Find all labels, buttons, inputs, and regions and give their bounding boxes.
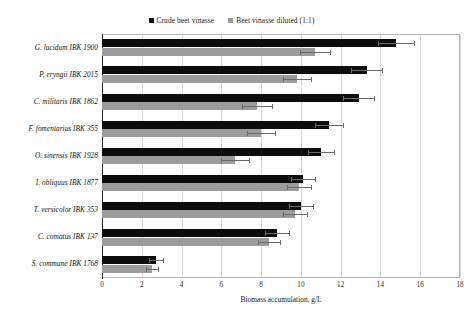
- error-bar-cap: [287, 185, 288, 190]
- bar-diluted: [102, 265, 152, 273]
- error-bar-cap: [343, 123, 344, 128]
- bar-crude: [102, 256, 156, 264]
- error-bar-cap: [315, 177, 316, 182]
- bar-group-row: O. sinensis IBK 1928: [102, 142, 460, 169]
- legend-label: Beet vinasse diluted (1:1): [236, 16, 314, 25]
- bar-crude: [102, 148, 321, 156]
- error-bar-cap: [291, 177, 292, 182]
- error-bar: [221, 160, 249, 161]
- x-tick-label: 18: [456, 281, 463, 289]
- bar-crude: [102, 94, 359, 102]
- bar-group-row: G. lucidum IBK 1900: [102, 34, 460, 61]
- error-bar-cap: [283, 77, 284, 82]
- bar-diluted: [102, 156, 235, 164]
- error-bar: [291, 179, 315, 180]
- error-bar-cap: [343, 96, 344, 101]
- error-bar-cap: [378, 41, 379, 46]
- bar-diluted: [102, 102, 257, 110]
- error-bar: [146, 269, 158, 270]
- error-bar: [258, 242, 280, 243]
- error-bar: [247, 133, 275, 134]
- x-axis-label: Biomass accumulation, g/L: [102, 295, 460, 304]
- bar-crude: [102, 202, 301, 210]
- error-bar: [283, 79, 311, 80]
- x-tick-label: 6: [220, 281, 224, 289]
- error-bar-cap: [300, 50, 301, 55]
- error-bar: [378, 43, 414, 44]
- error-bar-cap: [163, 258, 164, 263]
- bar-diluted: [102, 48, 315, 56]
- x-tick-label: 10: [297, 281, 304, 289]
- bar-group-row: C. comatus IBK 137: [102, 224, 460, 251]
- x-tick-label: 8: [259, 281, 263, 289]
- error-bar: [308, 152, 334, 153]
- error-bar-cap: [258, 240, 259, 245]
- error-bar-cap: [330, 50, 331, 55]
- bar-group-row: C. militaris IBK 1862: [102, 88, 460, 115]
- legend-swatch-icon: [228, 18, 233, 23]
- legend-item-2: Beet vinasse diluted (1:1): [228, 16, 314, 25]
- error-bar-cap: [283, 212, 284, 217]
- bar-group-row: T. versicolor IBK 353: [102, 197, 460, 224]
- bar-rows: G. lucidum IBK 1900P. eryngii IBK 2015C.…: [102, 34, 460, 278]
- error-bar: [283, 214, 307, 215]
- error-bar-cap: [272, 104, 273, 109]
- error-bar-cap: [351, 68, 352, 73]
- error-bar-cap: [307, 212, 308, 217]
- error-bar-cap: [242, 104, 243, 109]
- error-bar-cap: [374, 96, 375, 101]
- x-tick-label: 16: [417, 281, 424, 289]
- error-bar-cap: [414, 41, 415, 46]
- category-label: T. versicolor IBK 353: [34, 205, 98, 214]
- error-bar-cap: [247, 131, 248, 136]
- x-tick-label: 12: [337, 281, 344, 289]
- category-label: G. lucidum IBK 1900: [35, 43, 98, 52]
- category-label: I. obliquus IBK 1877: [36, 178, 98, 187]
- bar-crude: [102, 229, 277, 237]
- bar-diluted: [102, 238, 269, 246]
- chart-legend: Crude beet vinasseBeet vinasse diluted (…: [0, 16, 463, 25]
- x-axis-ticks: 024681012141618: [102, 281, 460, 293]
- error-bar: [265, 233, 289, 234]
- error-bar-cap: [334, 150, 335, 155]
- error-bar-cap: [158, 267, 159, 272]
- error-bar-cap: [221, 158, 222, 163]
- error-bar: [351, 70, 383, 71]
- error-bar-cap: [289, 231, 290, 236]
- error-bar: [289, 206, 313, 207]
- bar-group-row: F. fomentarius IBK 355: [102, 115, 460, 142]
- error-bar: [343, 98, 375, 99]
- bar-crude: [102, 121, 329, 129]
- error-bar: [242, 106, 272, 107]
- bar-group-row: S. commune IBK 1768: [102, 251, 460, 278]
- category-label: C. militaris IBK 1862: [34, 97, 98, 106]
- x-tick-label: 0: [100, 281, 104, 289]
- error-bar-cap: [382, 68, 383, 73]
- error-bar: [315, 125, 343, 126]
- error-bar: [300, 52, 330, 53]
- error-bar-cap: [308, 150, 309, 155]
- category-label: C. comatus IBK 137: [38, 232, 98, 241]
- error-bar-cap: [265, 231, 266, 236]
- error-bar-cap: [315, 123, 316, 128]
- legend-item-1: Crude beet vinasse: [149, 16, 215, 25]
- error-bar-cap: [146, 267, 147, 272]
- bar-group-row: P. eryngii IBK 2015: [102, 61, 460, 88]
- bar-diluted: [102, 183, 299, 191]
- error-bar-cap: [275, 131, 276, 136]
- bar-crude: [102, 66, 367, 74]
- bar-diluted: [102, 75, 297, 83]
- category-label: S. commune IBK 1768: [32, 259, 98, 268]
- bar-diluted: [102, 129, 261, 137]
- error-bar-cap: [313, 204, 314, 209]
- error-bar-cap: [311, 185, 312, 190]
- error-bar: [287, 187, 311, 188]
- x-tick-label: 2: [140, 281, 144, 289]
- category-label: O. sinensis IBK 1928: [35, 151, 98, 160]
- category-label: P. eryngii IBK 2015: [39, 70, 98, 79]
- bar-crude: [102, 39, 396, 47]
- legend-swatch-icon: [149, 18, 154, 23]
- error-bar-cap: [280, 240, 281, 245]
- error-bar-cap: [249, 158, 250, 163]
